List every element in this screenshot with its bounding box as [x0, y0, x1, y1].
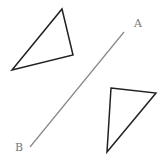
label-b: B [15, 142, 23, 153]
line-ab [30, 32, 124, 147]
diagram-canvas: A B [0, 0, 165, 161]
triangle-original [12, 9, 73, 70]
label-a: A [134, 18, 142, 29]
triangle-reflected [107, 88, 156, 152]
